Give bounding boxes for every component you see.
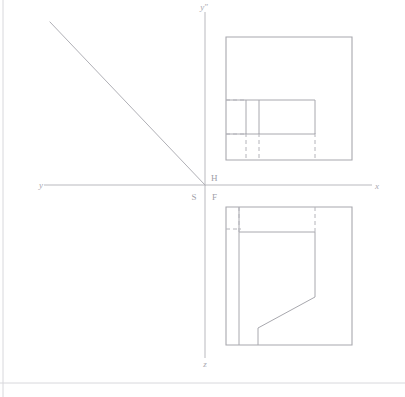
front-view: [226, 207, 352, 345]
top-view-outline: [226, 37, 352, 160]
axis-label-z-bottom: z: [202, 359, 207, 369]
axis-label-y-double-prime-top: y″: [199, 2, 208, 12]
orthographic-projection-figure: y x y″ z H S F: [0, 0, 405, 397]
top-view: [226, 37, 352, 160]
front-view-outline: [226, 207, 352, 345]
label-h-horizontal-plane: H: [211, 173, 218, 183]
page-frame: [0, 0, 405, 397]
axis-label-y-left: y: [38, 180, 43, 190]
45-degree-miter-line: [50, 22, 205, 185]
axis-label-x-right: x: [374, 181, 379, 191]
drawing-sheet: y x y″ z H S F: [0, 0, 405, 397]
coordinate-axes: [44, 12, 372, 358]
miter-line-group: [50, 22, 205, 185]
label-s-side-plane: S: [191, 192, 196, 202]
label-f-frontal-plane: F: [212, 192, 217, 202]
front-view-slope-edge: [258, 297, 315, 328]
